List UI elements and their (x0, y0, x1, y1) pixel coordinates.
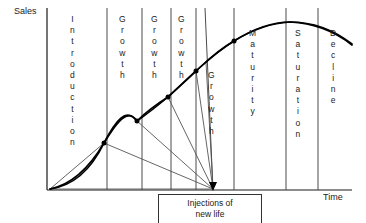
connector-line-5 (206, 62, 213, 189)
curve-marker-1 (102, 141, 107, 146)
origin-to-marker-1 (50, 143, 104, 189)
injections-callout-box: Injections of new life (158, 194, 262, 223)
curve-marker-2 (135, 119, 140, 124)
x-axis-label: Time (323, 192, 343, 202)
injections-callout-line2: new life (164, 209, 256, 220)
connector-line-2 (137, 121, 213, 189)
product-life-cycle-diagram: Sales Time Introduction Growth Growth Gr… (0, 0, 366, 223)
y-axis-label: Sales (14, 6, 37, 16)
curve-marker-4 (194, 69, 199, 74)
injection-connector-lines (104, 62, 213, 189)
plot-area (0, 0, 366, 223)
curve-marker-3 (166, 95, 171, 100)
stage-dividers (107, 8, 318, 190)
curve-marker-5 (232, 39, 237, 44)
connector-line-1 (104, 143, 213, 189)
injections-callout-line1: Injections of (187, 198, 232, 208)
